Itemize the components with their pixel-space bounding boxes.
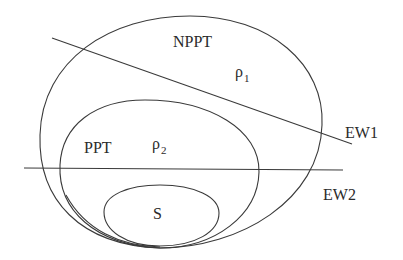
- rho1-subscript: 1: [244, 72, 250, 84]
- rho2-subscript: 2: [161, 144, 167, 156]
- ew2-label: EW2: [323, 187, 356, 203]
- nppt-label: NPPT: [173, 34, 212, 50]
- ew2-witness-line: [24, 168, 343, 170]
- rho2-label: ρ2: [152, 136, 166, 152]
- rho2-symbol: ρ: [152, 135, 160, 152]
- nppt-set-boundary: [40, 16, 322, 248]
- ppt-label: PPT: [84, 140, 112, 156]
- ew1-witness-line: [52, 38, 352, 144]
- rho1-label: ρ1: [235, 64, 249, 80]
- ppt-set-boundary: [60, 100, 259, 248]
- separable-label: S: [153, 206, 162, 222]
- rho1-symbol: ρ: [235, 63, 243, 80]
- ew1-label: EW1: [345, 125, 378, 141]
